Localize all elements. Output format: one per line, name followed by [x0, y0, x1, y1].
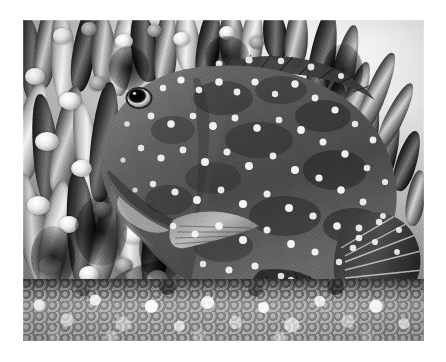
- gravel-texture: [23, 279, 424, 341]
- photograph: [23, 20, 424, 341]
- photo-caption: Black-and-white photograph of a spotted …: [0, 0, 1, 1]
- eye: [126, 87, 153, 109]
- page-root: Black-and-white photograph of a spotted …: [0, 0, 446, 362]
